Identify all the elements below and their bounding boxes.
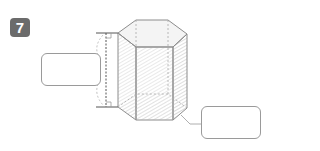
height-answer-box[interactable]	[41, 53, 101, 86]
base-leader	[181, 115, 201, 124]
base-answer-box[interactable]	[201, 106, 261, 139]
